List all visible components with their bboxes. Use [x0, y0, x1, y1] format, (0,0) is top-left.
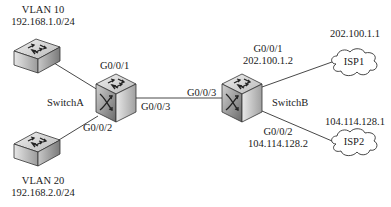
switchA-port-g1-label: G0/0/1 — [100, 60, 129, 72]
vlan20-subnet: 192.168.2.0/24 — [8, 187, 78, 199]
switchB-port-g1-ip: 202.100.1.2 — [233, 55, 303, 67]
switchB-port-g1-label: G0/0/1 202.100.1.2 — [233, 43, 303, 67]
vlan20-label: VLAN 20 192.168.2.0/24 — [8, 175, 78, 199]
switchB-port-g3-label: G0/0/3 — [187, 87, 216, 99]
vlan10-title: VLAN 10 — [8, 4, 78, 16]
switchB-name-label: SwitchB — [272, 97, 308, 109]
vlan20-switch-icon — [14, 132, 60, 166]
switchA-name-label: SwitchA — [47, 97, 84, 109]
link-vlan10-switchA — [54, 63, 98, 90]
isp1-name-label: ISP1 — [330, 56, 378, 68]
isp2-name-label: ISP2 — [330, 136, 378, 148]
switchA-port-g2-label: G0/0/2 — [83, 122, 112, 134]
switchB-port-g2-label: G0/0/2 104.114.128.2 — [238, 126, 318, 150]
switchB-port-g2: G0/0/2 — [238, 126, 318, 138]
switchB-port-g1: G0/0/1 — [233, 43, 303, 55]
vlan10-switch-icon — [14, 39, 60, 73]
switchB-port-g2-ip: 104.114.128.2 — [238, 138, 318, 150]
switchB-icon — [222, 74, 262, 122]
vlan20-title: VLAN 20 — [8, 175, 78, 187]
switchA-port-g3-label: G0/0/3 — [141, 101, 170, 113]
vlan10-subnet: 192.168.1.0/24 — [8, 16, 78, 28]
vlan10-label: VLAN 10 192.168.1.0/24 — [8, 4, 78, 28]
isp2-ip-label: 104.114.128.1 — [322, 116, 388, 128]
isp1-ip-label: 202.100.1.1 — [327, 28, 383, 40]
switchA-icon — [96, 74, 136, 122]
